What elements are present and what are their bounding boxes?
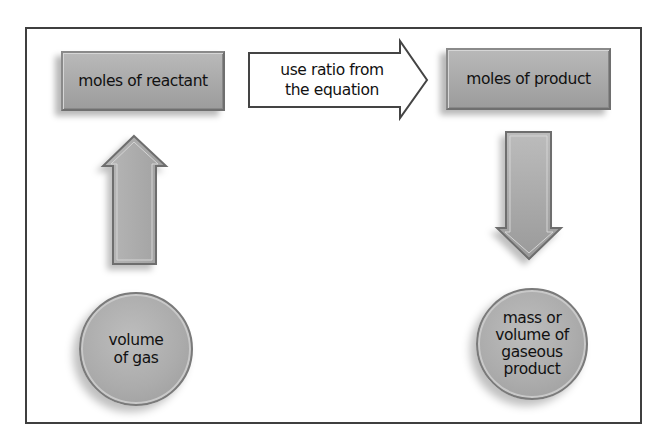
volume-of-gas-circle: volume of gas [79, 292, 193, 406]
up-arrow-icon [103, 136, 166, 264]
ratio-line-1: use ratio from [262, 60, 402, 80]
gas-line-2: of gas [108, 349, 163, 367]
product-circle-line-3: gaseous [495, 344, 569, 361]
gaseous-product-circle: mass or volume of gaseous product [476, 288, 588, 400]
gas-line-1: volume [108, 331, 163, 349]
product-label: moles of product [466, 70, 591, 88]
ratio-arrow-label: use ratio from the equation [262, 60, 402, 100]
down-arrow-icon [497, 132, 561, 259]
product-circle-line-2: volume of [495, 327, 569, 344]
reactant-label: moles of reactant [78, 72, 208, 90]
product-circle-line-4: product [495, 361, 569, 378]
ratio-line-2: the equation [262, 80, 402, 100]
product-circle-line-1: mass or [495, 310, 569, 327]
moles-of-reactant-box: moles of reactant [61, 51, 225, 111]
moles-of-product-box: moles of product [446, 48, 611, 110]
